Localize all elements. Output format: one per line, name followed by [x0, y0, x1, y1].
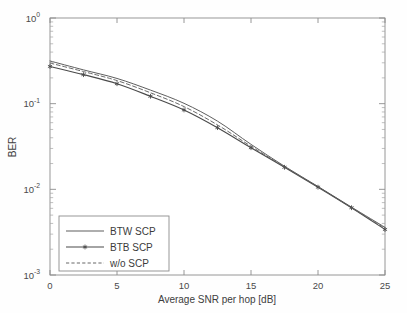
y-tick-label: 10-3	[23, 268, 40, 281]
y-axis-title: BER	[7, 137, 18, 158]
chart-figure: 10010-110-210-3 0510152025 Average SNR p…	[0, 0, 407, 313]
ber-vs-snr-chart: 10010-110-210-3 0510152025 Average SNR p…	[0, 0, 407, 313]
legend-label-0: BTW SCP	[110, 226, 156, 237]
x-tick-label: 25	[380, 280, 391, 291]
x-tick-label: 5	[114, 280, 119, 291]
x-tick-label: 10	[179, 280, 190, 291]
y-tick-exponent: 0	[36, 11, 40, 18]
x-axis-title: Average SNR per hop [dB]	[158, 294, 276, 305]
y-tick-exponent: -2	[34, 182, 40, 189]
legend: BTW SCPBTB SCPw/o SCP	[59, 216, 169, 271]
y-tick-exponent: -1	[34, 97, 40, 104]
legend-label-1: BTB SCP	[110, 242, 153, 253]
x-tick-label: 20	[313, 280, 324, 291]
legend-label-2: w/o SCP	[109, 258, 149, 269]
y-tick-label: 100	[26, 11, 41, 24]
y-tick-label: 10-2	[23, 182, 40, 195]
x-tick-label: 15	[246, 280, 257, 291]
y-tick-exponent: -3	[34, 268, 40, 275]
y-tick-label: 10-1	[23, 97, 40, 110]
x-tick-label: 0	[47, 280, 52, 291]
